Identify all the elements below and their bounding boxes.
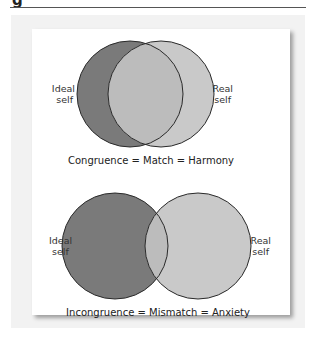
- real-self-label-1: Real: [251, 235, 271, 246]
- ideal-self-label-1: Ideal: [52, 83, 75, 94]
- venn-congruence: Ideal self Real self Congruence = Match …: [52, 41, 234, 166]
- congruence-caption: Congruence = Match = Harmony: [68, 155, 234, 166]
- venn-incongruence: Ideal self Real self Incongruence = Mism…: [49, 193, 271, 318]
- real-self-label-2: self: [252, 246, 269, 257]
- ideal-self-label-1: Ideal: [49, 235, 72, 246]
- venn-diagrams: Ideal self Real self Congruence = Match …: [0, 0, 316, 349]
- real-self-label-2: self: [214, 94, 231, 105]
- incongruence-caption: Incongruence = Mismatch = Anxiety: [66, 307, 250, 318]
- real-self-label-1: Real: [213, 83, 233, 94]
- ideal-self-label-2: self: [52, 246, 69, 257]
- ideal-self-label-2: self: [56, 94, 73, 105]
